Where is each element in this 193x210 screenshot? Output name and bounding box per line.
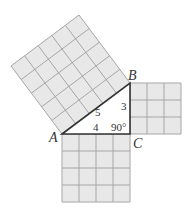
vertex-b-label: B <box>128 68 137 83</box>
right-angle-label: 90° <box>111 121 126 133</box>
side-bc-length: 3 <box>121 100 127 112</box>
pythagorean-diagram: A B C 5 3 4 90° <box>0 0 193 210</box>
vertex-a-label: A <box>48 130 58 145</box>
side-ab-length: 5 <box>95 106 101 118</box>
square-on-bc <box>130 83 181 134</box>
vertex-c-label: C <box>133 136 143 151</box>
side-ac-length: 4 <box>93 121 99 133</box>
square-on-ac <box>62 134 130 202</box>
